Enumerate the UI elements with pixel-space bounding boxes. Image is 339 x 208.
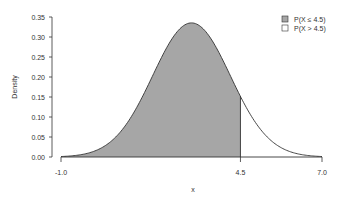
- y-tick-label: 0.20: [31, 74, 45, 81]
- y-tick-label: 0.05: [31, 134, 45, 141]
- x-axis-label: x: [191, 186, 195, 193]
- y-tick-label: 0.30: [31, 34, 45, 41]
- legend-swatch-left: [282, 16, 288, 22]
- legend-swatch-right: [282, 25, 288, 31]
- legend-label-right: P(X > 4.5): [294, 25, 326, 33]
- y-tick-label: 0.25: [31, 54, 45, 61]
- y-tick-label: 0.10: [31, 114, 45, 121]
- x-axis: -1.04.57.0: [55, 157, 327, 176]
- y-axis: 0.000.050.100.150.200.250.300.35: [31, 14, 52, 161]
- density-chart: 0.000.050.100.150.200.250.300.35 -1.04.5…: [0, 0, 339, 208]
- x-tick-label: 7.0: [317, 169, 327, 176]
- legend: P(X ≤ 4.5) P(X > 4.5): [282, 16, 326, 33]
- x-tick-label: -1.0: [55, 169, 67, 176]
- x-tick-label: 4.5: [236, 169, 246, 176]
- y-tick-label: 0.35: [31, 14, 45, 21]
- y-axis-label: Density: [11, 75, 19, 99]
- y-tick-label: 0.15: [31, 94, 45, 101]
- legend-label-left: P(X ≤ 4.5): [294, 16, 325, 24]
- y-tick-label: 0.00: [31, 154, 45, 161]
